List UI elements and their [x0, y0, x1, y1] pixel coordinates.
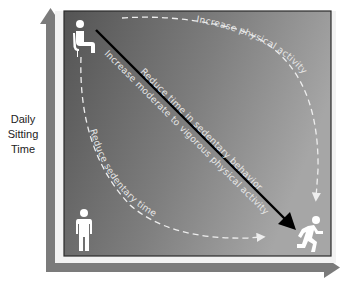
behavior-diagram: Reduce time in sedentary behavior Increa…: [0, 0, 345, 284]
